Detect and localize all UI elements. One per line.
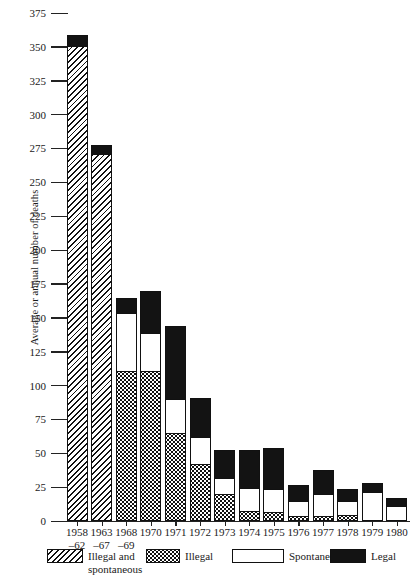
legend-label: Illegal <box>185 549 213 563</box>
legend-swatch <box>146 549 180 563</box>
bar-segment-legal <box>362 483 383 492</box>
y-tick-125: 125 <box>0 346 68 358</box>
bar-segment-spontaneous <box>116 313 137 372</box>
legend-label-line1: Legal <box>371 550 396 562</box>
bar-segment-spontaneous <box>239 488 260 512</box>
y-tick-375: 375 <box>0 7 68 19</box>
y-tick-label: 275 <box>30 142 47 154</box>
bar-segment-spontaneous <box>386 506 407 521</box>
bar-segment-illegal <box>190 464 211 521</box>
bar-1971 <box>165 327 186 521</box>
y-tick-150: 150 <box>0 312 68 324</box>
bar-segment-spontaneous <box>288 501 309 517</box>
bar-segment-legal <box>239 450 260 489</box>
bar-segment-spontaneous <box>140 333 161 372</box>
y-tick-label: 25 <box>35 481 46 493</box>
bar-segment-spontaneous <box>214 478 235 495</box>
bar-segment-illegal <box>239 511 260 521</box>
y-tick-350: 350 <box>0 41 68 53</box>
bar-segment-illegal <box>165 433 186 521</box>
plot-area <box>66 13 410 521</box>
bar-segment-spontaneous <box>362 492 383 521</box>
bar-segment-illegal <box>116 371 137 521</box>
bar-segment-legal <box>313 470 334 495</box>
legend-label: Legal <box>371 549 396 563</box>
y-tick-label: 50 <box>35 447 46 459</box>
bar-segment-legal <box>165 326 186 400</box>
legend-swatch <box>232 549 284 563</box>
y-tick-225: 225 <box>0 210 68 222</box>
y-tick-label: 150 <box>30 312 47 324</box>
y-tick-75: 75 <box>0 413 68 425</box>
legend-swatch <box>330 549 366 563</box>
bar-segment-illegal-and-spontaneous <box>91 154 112 521</box>
y-tick-50: 50 <box>0 447 68 459</box>
bar-segment-spontaneous <box>337 501 358 516</box>
bar-segment-spontaneous <box>313 494 334 517</box>
y-tick-25: 25 <box>0 481 68 493</box>
y-tick-label: 125 <box>30 346 47 358</box>
y-tick-0: 0 <box>0 515 68 527</box>
bar-segment-legal <box>116 298 137 314</box>
bar-1978 <box>337 490 358 521</box>
legend-label-line1: Illegal and <box>88 550 135 562</box>
bar-chart: Average or annual number of deaths 37535… <box>0 0 416 575</box>
bar-segment-legal <box>91 145 112 155</box>
y-tick-label: 350 <box>30 41 47 53</box>
bar-segment-legal <box>288 485 309 502</box>
bar-1968–69 <box>116 299 137 521</box>
bar-segment-spontaneous <box>190 437 211 465</box>
y-tick-100: 100 <box>0 380 68 392</box>
bar-1979 <box>362 484 383 521</box>
legend-label-line2: spontaneous <box>88 563 142 575</box>
bar-segment-legal <box>190 398 211 438</box>
bar-1980 <box>386 499 407 521</box>
y-tick-label: 225 <box>30 210 47 222</box>
y-tick-label: 200 <box>30 244 47 256</box>
y-tick-label: 0 <box>41 515 47 527</box>
bar-segment-legal <box>214 450 235 479</box>
legend-swatch <box>47 549 83 563</box>
y-tick-label: 300 <box>30 109 47 121</box>
bar-1970 <box>140 292 161 521</box>
y-tick-250: 250 <box>0 176 68 188</box>
bar-segment-illegal-and-spontaneous <box>67 46 88 521</box>
bar-segment-legal <box>337 489 358 502</box>
legend-label: Illegal andspontaneous <box>88 549 142 575</box>
y-tick-300: 300 <box>0 109 68 121</box>
chart-legend: Illegal andspontaneousIllegalSpontaneous… <box>0 549 416 575</box>
y-tick-label: 100 <box>30 380 47 392</box>
bar-segment-legal <box>67 35 88 47</box>
bar-segment-spontaneous <box>165 399 186 434</box>
y-tick-label: 175 <box>30 278 47 290</box>
x-label-line1: 1980 <box>386 526 408 538</box>
bar-1974 <box>239 451 260 521</box>
y-tick-label: 250 <box>30 176 47 188</box>
bar-segment-illegal <box>214 494 235 521</box>
y-tick-label: 75 <box>35 413 46 425</box>
y-tick-200: 200 <box>0 244 68 256</box>
bar-1973 <box>214 451 235 521</box>
bar-1972 <box>190 399 211 521</box>
y-tick-label: 325 <box>30 75 47 87</box>
bar-1963–67 <box>91 146 112 521</box>
bar-1958–62 <box>67 36 88 521</box>
bar-segment-illegal <box>140 371 161 521</box>
y-tick-175: 175 <box>0 278 68 290</box>
y-tick-275: 275 <box>0 142 68 154</box>
bar-segment-legal <box>263 448 284 490</box>
bar-segment-spontaneous <box>263 489 284 513</box>
bar-1975 <box>263 449 284 521</box>
x-axis-line <box>66 521 410 522</box>
y-tick-label: 375 <box>30 7 47 19</box>
bar-1976 <box>288 486 309 521</box>
bar-segment-legal <box>140 291 161 334</box>
y-tick-325: 325 <box>0 75 68 87</box>
bar-segment-illegal <box>263 512 284 521</box>
bar-1977 <box>313 471 334 521</box>
legend-label-line1: Illegal <box>185 550 213 562</box>
bar-segment-legal <box>386 498 407 507</box>
x-label-1980: 1980 <box>380 526 414 539</box>
